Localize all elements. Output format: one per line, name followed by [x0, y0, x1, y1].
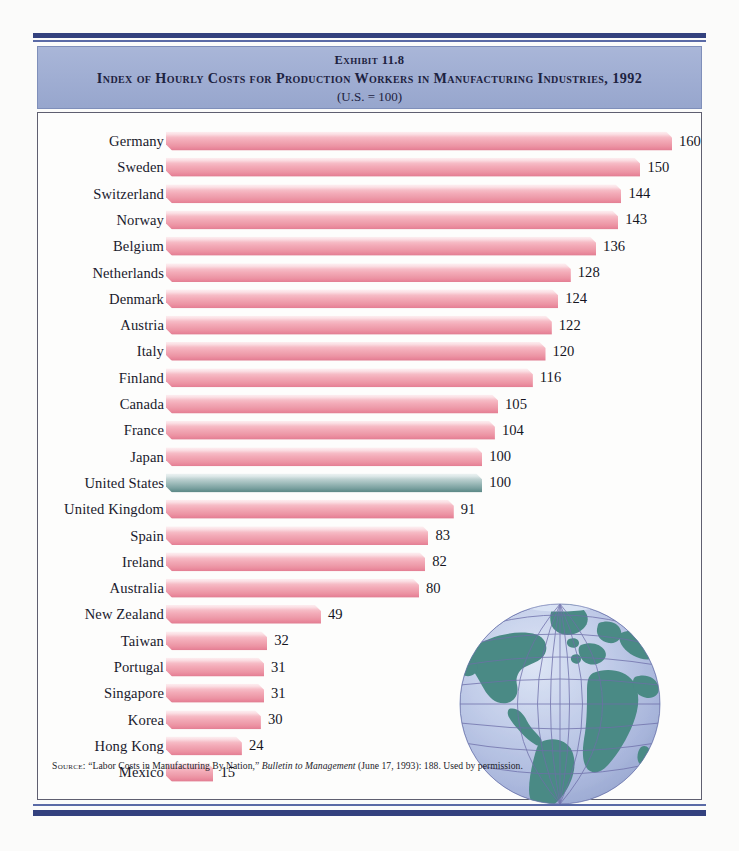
bar-value-label: 144: [628, 185, 650, 202]
bar-category-label: Sweden: [117, 159, 164, 176]
bar-container: 105: [166, 395, 498, 414]
bar: [166, 316, 552, 335]
bar-category-label: Australia: [110, 580, 164, 597]
source-prefix: Source:: [52, 760, 86, 771]
bar-value-label: 128: [578, 264, 600, 281]
exhibit-title: Index of Hourly Costs for Production Wor…: [38, 70, 701, 87]
bar-category-label: Netherlands: [92, 264, 164, 281]
bar-category-label: Belgium: [113, 238, 164, 255]
bar-row: Taiwan32: [38, 627, 701, 655]
bar-row: Sweden150: [38, 153, 701, 181]
page-canvas: Exhibit 11.8 Index of Hourly Costs for P…: [0, 0, 739, 851]
bar-row: Canada105: [38, 390, 701, 418]
bar-row: Portugal31: [38, 653, 701, 681]
bar-container: 120: [166, 342, 546, 361]
bars-plot-area: Germany160Sweden150Switzerland144Norway1…: [38, 113, 701, 799]
bar-row: Germany160: [38, 127, 701, 155]
bar-row: Japan100: [38, 443, 701, 471]
bar-container: 31: [166, 658, 264, 677]
bar-category-label: Canada: [120, 396, 164, 413]
bar-value-label: 100: [489, 448, 511, 465]
bar-container: 122: [166, 316, 552, 335]
source-note: Source: “Labor Costs in Manufacturing By…: [52, 760, 692, 771]
bar-container: 116: [166, 368, 533, 387]
source-article: “Labor Costs in Manufacturing By Nation,…: [88, 760, 259, 771]
top-thick-rule: [33, 33, 706, 38]
bar-category-label: Finland: [119, 369, 164, 386]
bar-container: 144: [166, 184, 621, 203]
bar-row: Ireland82: [38, 548, 701, 576]
bar: [166, 684, 264, 703]
bar-container: 124: [166, 289, 558, 308]
bar-category-label: Denmark: [109, 290, 164, 307]
bar-category-label: Singapore: [104, 685, 164, 702]
bar-value-label: 49: [328, 606, 343, 623]
bar-row: New Zealand49: [38, 600, 701, 628]
bar-value-label: 30: [268, 711, 283, 728]
bar-row: Italy120: [38, 337, 701, 365]
bar-category-label: New Zealand: [85, 606, 164, 623]
bar-value-label: 104: [502, 422, 524, 439]
bar-container: 80: [166, 579, 419, 598]
bottom-thin-rule: [33, 804, 706, 806]
bar: [166, 500, 454, 519]
bar-value-label: 31: [271, 685, 286, 702]
bar-category-label: Korea: [128, 711, 164, 728]
bar-row: Norway143: [38, 206, 701, 234]
bar-container: 24: [166, 736, 242, 755]
bar: [166, 421, 495, 440]
bar-category-label: Austria: [120, 317, 164, 334]
bar-category-label: Germany: [109, 133, 164, 150]
bar: [166, 447, 482, 466]
bar-category-label: Switzerland: [93, 185, 164, 202]
bar-value-label: 31: [271, 659, 286, 676]
bar-value-label: 82: [432, 553, 447, 570]
bar-value-label: 122: [559, 317, 581, 334]
bar: [166, 210, 618, 229]
bar: [166, 736, 242, 755]
bar: [166, 368, 533, 387]
bar-row: Finland116: [38, 364, 701, 392]
bar-container: 160: [166, 132, 672, 151]
bar-container: 31: [166, 684, 264, 703]
bar-row: Spain83: [38, 522, 701, 550]
bar-container: 49: [166, 605, 321, 624]
bar: [166, 237, 596, 256]
bar-container: 91: [166, 500, 454, 519]
bar-container: 82: [166, 552, 425, 571]
bar-container: 143: [166, 210, 618, 229]
bar-row: Austria122: [38, 311, 701, 339]
bar-category-label: Norway: [116, 211, 164, 228]
bar-value-label: 100: [489, 474, 511, 491]
bar: [166, 552, 425, 571]
bar-row: Australia80: [38, 574, 701, 602]
bar-category-label: France: [124, 422, 164, 439]
bar-container: 150: [166, 158, 640, 177]
bar: [166, 342, 546, 361]
bar-category-label: United States: [84, 474, 164, 491]
bar-value-label: 136: [603, 238, 625, 255]
bar-row: France104: [38, 416, 701, 444]
bar-row: Hong Kong24: [38, 732, 701, 760]
bar-row: United States100: [38, 469, 701, 497]
bar: [166, 658, 264, 677]
bar-container: 30: [166, 710, 261, 729]
bar: [166, 395, 498, 414]
bottom-thick-rule: [33, 810, 706, 816]
bar-category-label: Hong Kong: [95, 737, 164, 754]
bar-container: 128: [166, 263, 571, 282]
bar-row: Switzerland144: [38, 180, 701, 208]
bar-row: Belgium136: [38, 232, 701, 260]
source-publication: Bulletin to Management: [262, 760, 356, 771]
bar-container: 100: [166, 447, 482, 466]
bar-value-label: 32: [274, 632, 289, 649]
chart-panel: Germany160Sweden150Switzerland144Norway1…: [37, 112, 702, 800]
bar-category-label: Portugal: [114, 659, 164, 676]
bar-category-label: Italy: [137, 343, 164, 360]
bar-value-label: 120: [553, 343, 575, 360]
top-thin-rule: [33, 40, 706, 42]
source-details: (June 17, 1993): 188. Used by permission…: [358, 760, 523, 771]
bar: [166, 263, 571, 282]
bar-value-label: 91: [461, 501, 476, 518]
bar-value-label: 105: [505, 396, 527, 413]
